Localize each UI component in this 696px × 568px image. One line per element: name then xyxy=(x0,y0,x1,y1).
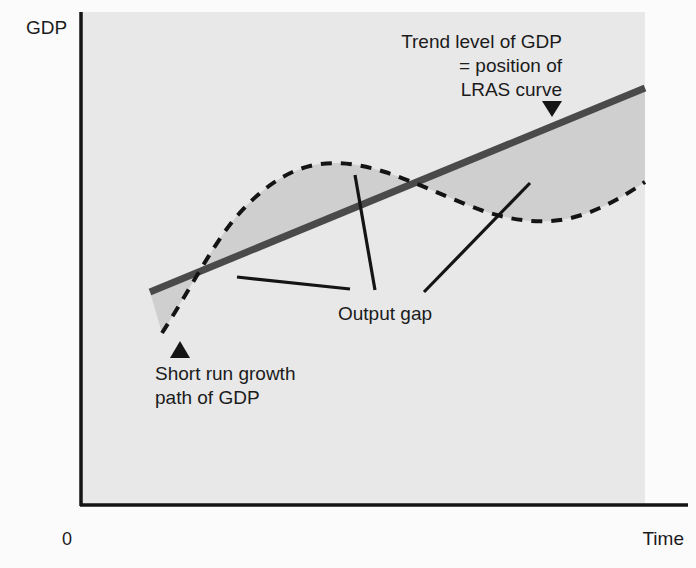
short-run-annotation-line2: path of GDP xyxy=(155,387,260,408)
origin-label: 0 xyxy=(62,529,72,549)
trend-annotation-line1: Trend level of GDP xyxy=(401,31,562,52)
trend-annotation-line2: = position of xyxy=(459,55,563,76)
x-axis-label: Time xyxy=(642,528,684,549)
output-gap-label: Output gap xyxy=(338,303,432,324)
short-run-annotation-line1: Short run growth xyxy=(155,363,295,384)
y-axis-label: GDP xyxy=(26,17,67,38)
output-gap-diagram: GDP 0 Time Trend level of GDP = position… xyxy=(0,0,696,568)
trend-annotation-line3: LRAS curve xyxy=(461,79,562,100)
